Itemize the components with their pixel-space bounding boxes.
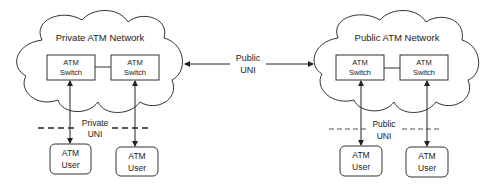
svg-text:Switch: Switch bbox=[60, 68, 82, 77]
svg-text:User: User bbox=[128, 163, 146, 173]
svg-text:Switch: Switch bbox=[124, 68, 146, 77]
public-switch-2: ATM Switch bbox=[400, 55, 448, 80]
svg-text:Switch: Switch bbox=[349, 68, 371, 77]
svg-text:ATM: ATM bbox=[352, 58, 367, 67]
public-user-1: ATM User bbox=[340, 146, 382, 176]
svg-text:User: User bbox=[352, 162, 370, 172]
svg-text:ATM: ATM bbox=[416, 58, 431, 67]
svg-text:ATM: ATM bbox=[128, 151, 145, 161]
public-uni-label-line2: UNI bbox=[240, 65, 256, 75]
private-switch-2: ATM Switch bbox=[111, 55, 159, 80]
private-network-title: Private ATM Network bbox=[56, 32, 145, 43]
svg-text:User: User bbox=[418, 163, 436, 173]
public-switch-1: ATM Switch bbox=[336, 55, 384, 80]
public-user-2: ATM User bbox=[406, 147, 448, 177]
atm-network-diagram: Private ATM Network ATM Switch ATM Switc… bbox=[0, 0, 496, 187]
svg-text:Switch: Switch bbox=[413, 68, 435, 77]
public-network-title: Public ATM Network bbox=[355, 32, 440, 43]
svg-text:ATM: ATM bbox=[62, 148, 79, 158]
private-uni-label-line1: Private bbox=[82, 118, 109, 128]
svg-text:ATM: ATM bbox=[127, 58, 142, 67]
private-user-1: ATM User bbox=[50, 144, 91, 174]
public-uni-boundary-label-line2: UNI bbox=[377, 131, 392, 141]
public-uni-boundary-label-line1: Public bbox=[372, 119, 396, 129]
private-uni-label-line2: UNI bbox=[88, 129, 103, 139]
svg-text:ATM: ATM bbox=[352, 150, 369, 160]
svg-text:ATM: ATM bbox=[418, 151, 435, 161]
svg-text:User: User bbox=[62, 160, 80, 170]
private-switch-1: ATM Switch bbox=[47, 55, 95, 80]
private-user-2: ATM User bbox=[116, 147, 158, 176]
public-uni-label-line1: Public bbox=[236, 53, 261, 63]
svg-text:ATM: ATM bbox=[63, 58, 78, 67]
